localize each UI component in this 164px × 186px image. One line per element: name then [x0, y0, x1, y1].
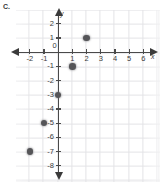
x-tick-label: 2: [80, 55, 94, 63]
y-axis-tick: [56, 165, 61, 166]
data-point: [27, 148, 33, 154]
y-axis-tick: [56, 80, 61, 81]
x-tick-label: 0: [48, 42, 62, 50]
x-tick-label: 5: [122, 55, 136, 63]
y-axis-tick: [56, 137, 61, 138]
x-tick-label: -2: [23, 55, 37, 63]
y-tick-label: -3: [40, 91, 54, 99]
y-axis-tick: [56, 66, 61, 67]
y-tick-label: -6: [40, 133, 54, 141]
y-axis-tick: [56, 123, 61, 124]
y-tick-label: -2: [40, 77, 54, 85]
x-tick-label: 1: [65, 55, 79, 63]
y-axis-down-arrow-icon: [55, 172, 63, 180]
y-tick-label: -7: [40, 148, 54, 156]
y-axis-tick: [56, 23, 61, 24]
x-tick-label: 6: [136, 55, 150, 63]
y-axis-tick: [56, 151, 61, 152]
y-tick-label: -8: [40, 162, 54, 170]
x-axis-label: x: [151, 53, 155, 61]
y-tick-label: 2: [40, 20, 54, 28]
x-tick-label: 4: [108, 55, 122, 63]
x-axis-left-arrow-icon: [11, 48, 19, 56]
y-tick-label: -1: [40, 62, 54, 70]
data-point: [69, 63, 75, 69]
data-point: [83, 35, 89, 41]
y-axis-tick: [56, 37, 61, 38]
y-axis-tick: [56, 108, 61, 109]
coordinate-plane-figure: C. x y -2-1012345621-1-2-3-4-5-6-7-8: [0, 0, 164, 186]
y-tick-label: -4: [40, 105, 54, 113]
problem-label: C.: [3, 3, 10, 11]
y-tick-label: 1: [40, 34, 54, 42]
y-axis-label: y: [60, 10, 64, 18]
x-tick-label: 3: [94, 55, 108, 63]
